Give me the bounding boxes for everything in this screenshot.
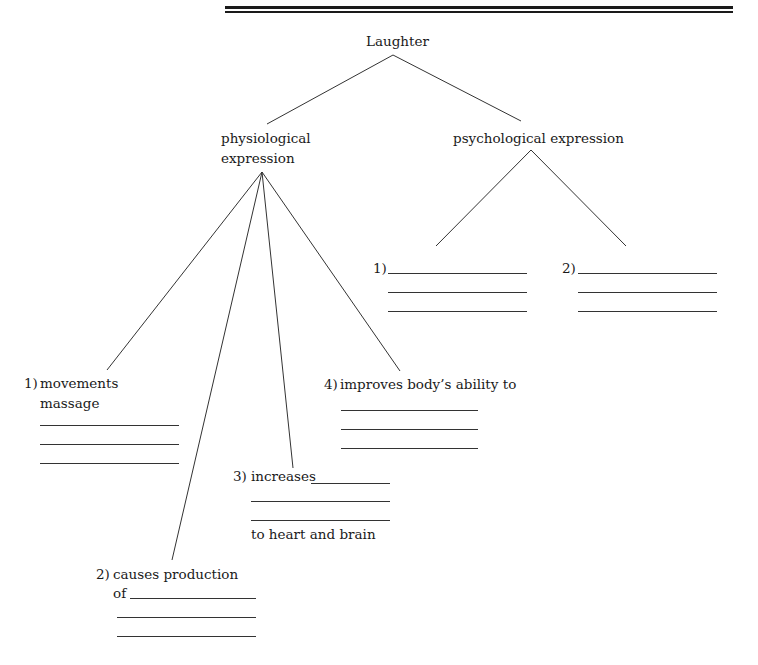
phys-item-3-blank-1[interactable] — [311, 483, 390, 484]
psych-item-1-num: 1) — [373, 260, 387, 276]
phys-item-1-blank-1[interactable] — [40, 425, 179, 426]
phys-item-3-text2: to heart and brain — [251, 526, 376, 542]
phys-item-3-blank-2[interactable] — [251, 501, 390, 502]
psych-item-2-blank-2[interactable] — [578, 292, 717, 293]
psychological-label: psychological expression — [453, 130, 624, 146]
phys-item-3-num: 3) — [233, 468, 247, 484]
phys-item-1-blank-3[interactable] — [40, 463, 179, 464]
phys-item-3-text: increases — [251, 468, 316, 484]
root-label: Laughter — [366, 33, 429, 49]
phys-item-1-num: 1) — [24, 375, 38, 391]
psych-item-2-num: 2) — [562, 260, 576, 276]
phys-item-2-num: 2) — [96, 566, 110, 582]
phys-item-2-blank-1[interactable] — [130, 598, 256, 599]
phys-item-1-text: movements — [40, 375, 118, 391]
phys-item-1-text2: massage — [40, 395, 99, 411]
phys-item-4-blank-3[interactable] — [341, 448, 478, 449]
psych-item-1-blank-3[interactable] — [388, 311, 527, 312]
phys-item-4-num: 4) — [324, 376, 338, 392]
phys-item-3-blank-3[interactable] — [251, 520, 390, 521]
phys-item-2-blank-3[interactable] — [117, 636, 256, 637]
phys-item-2-text2: of — [113, 585, 126, 601]
phys-item-4-blank-2[interactable] — [341, 429, 478, 430]
psych-item-1-blank-1[interactable] — [388, 273, 527, 274]
phys-item-2-text: causes production — [113, 566, 238, 582]
physiological-label-line1: physiological — [221, 130, 311, 146]
phys-item-2-blank-2[interactable] — [117, 617, 256, 618]
psych-item-2-blank-1[interactable] — [578, 273, 717, 274]
phys-item-4-text: improves body’s ability to — [340, 376, 516, 392]
psych-item-2-blank-3[interactable] — [578, 311, 717, 312]
phys-item-4-blank-1[interactable] — [341, 410, 478, 411]
phys-item-1-blank-2[interactable] — [40, 444, 179, 445]
psych-item-1-blank-2[interactable] — [388, 292, 527, 293]
physiological-label-line2: expression — [221, 150, 295, 166]
